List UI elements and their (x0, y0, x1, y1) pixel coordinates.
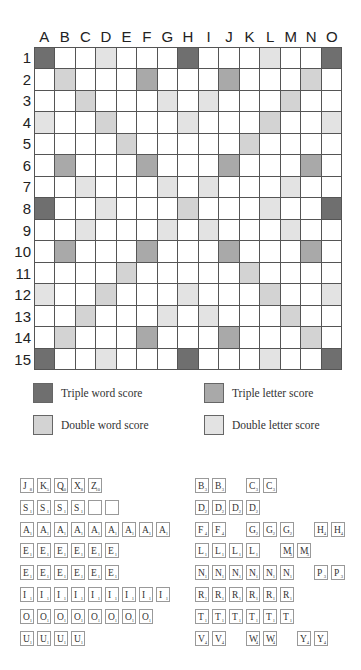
board-square (96, 69, 115, 89)
board-square (178, 134, 197, 154)
triple-word-square (322, 198, 341, 218)
tile-points: 1 (64, 509, 66, 514)
row-label: 2 (0, 69, 31, 91)
tile-points: 1 (81, 618, 83, 623)
triple-letter-square (219, 327, 238, 347)
board-square (137, 263, 156, 283)
blank-tile (105, 500, 119, 515)
tile-letter: E (108, 545, 114, 557)
board-square (76, 241, 95, 261)
legend-label: Double word score (61, 419, 149, 431)
double-letter-square (96, 48, 115, 68)
triple-letter-swatch (204, 383, 224, 403)
tile-points: 1 (47, 509, 49, 514)
letter-tile: D2 (212, 500, 226, 515)
board-square (117, 177, 136, 197)
letter-tile: R1 (263, 587, 277, 602)
double-word-square (96, 284, 115, 304)
tile-points: 1 (256, 574, 258, 579)
tile-points: 1 (115, 552, 117, 557)
tile-points: 1 (290, 596, 292, 601)
letter-tile: E1 (54, 543, 68, 558)
tile-points: 1 (81, 596, 83, 601)
letter-tile: O1 (139, 609, 153, 624)
board-square (117, 198, 136, 218)
letter-tile: S1 (20, 500, 34, 515)
column-labels: ABCDEFGHIJKLMNO (34, 28, 342, 46)
board-square (281, 327, 300, 347)
board-square (260, 263, 279, 283)
double-letter-square (199, 177, 218, 197)
letter-tile: A1 (20, 522, 34, 537)
board-square (281, 349, 300, 369)
tile-letter: R (249, 589, 255, 601)
tile-points: 3 (256, 487, 258, 492)
tile-points: 10 (96, 487, 101, 492)
letter-tile: E1 (71, 543, 85, 558)
letter-tile: I1 (71, 587, 85, 602)
board-square (35, 155, 54, 175)
board-square (301, 177, 320, 197)
tile-points: 3 (307, 552, 309, 557)
board-square (96, 91, 115, 111)
tile-points: 1 (115, 531, 117, 536)
board-square (76, 327, 95, 347)
tile-letter: I (142, 589, 145, 601)
double-letter-square (178, 112, 197, 132)
tile-letter: R (215, 589, 221, 601)
letter-tile: J8 (20, 478, 34, 493)
letter-tile: M3 (280, 543, 294, 558)
board-square (96, 155, 115, 175)
letter-tile: G2 (263, 522, 277, 537)
tile-letter: R (283, 589, 289, 601)
letter-tile: D2 (195, 500, 209, 515)
tile-points: 1 (47, 552, 49, 557)
tile-points: 2 (273, 531, 275, 536)
letter-tile: I1 (37, 587, 51, 602)
tile-letter: L (232, 545, 238, 557)
tile-letter: P (334, 567, 339, 579)
board-square (199, 134, 218, 154)
double-word-square (281, 306, 300, 326)
tile-points: 1 (166, 596, 168, 601)
board-square (137, 134, 156, 154)
letter-tile: P3 (331, 565, 345, 580)
tile-points: 1 (205, 596, 207, 601)
tile-letter: I (108, 589, 111, 601)
tile-letter: F (215, 524, 220, 536)
double-word-square (240, 263, 259, 283)
double-letter-square (260, 198, 279, 218)
double-letter-square (199, 220, 218, 240)
board-square (260, 306, 279, 326)
row-label: 8 (0, 198, 31, 220)
tile-points: 1 (64, 640, 66, 645)
tile-points: 1 (273, 574, 275, 579)
board-square (199, 327, 218, 347)
row-label: 10 (0, 241, 31, 263)
letter-tile: G2 (246, 522, 260, 537)
board-square (199, 263, 218, 283)
triple-letter-square (137, 69, 156, 89)
tile-points: 1 (81, 509, 83, 514)
tile-points: 2 (222, 509, 224, 514)
double-letter-square (35, 112, 54, 132)
tile-points: 1 (64, 552, 66, 557)
letter-tile: F4 (195, 522, 209, 537)
row-label: 6 (0, 155, 31, 177)
tile-points: 4 (205, 640, 207, 645)
board-square (240, 306, 259, 326)
double-word-square (301, 327, 320, 347)
legend-double-letter: Double letter score (204, 415, 320, 435)
board-square (322, 327, 341, 347)
board-square (35, 177, 54, 197)
tile-points: 1 (30, 531, 32, 536)
legend-label: Triple word score (61, 387, 142, 399)
triple-word-square (35, 48, 54, 68)
tile-points: 2 (205, 509, 207, 514)
board-square (219, 48, 238, 68)
letter-tile: I1 (122, 587, 136, 602)
column-label: A (34, 28, 55, 46)
letter-tile: F4 (212, 522, 226, 537)
triple-letter-square (219, 69, 238, 89)
tile-points: 1 (205, 618, 207, 623)
